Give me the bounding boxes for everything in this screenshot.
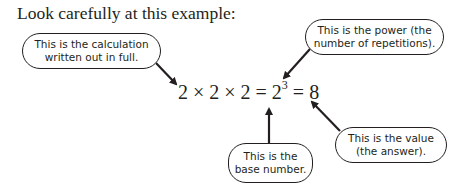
callout-value-line1: This is the value	[348, 132, 434, 145]
equation-expanded: 2 × 2 × 2	[178, 81, 251, 103]
callout-value-line2: (the answer).	[348, 145, 434, 158]
equation-value: 8	[309, 81, 319, 103]
equation-equals-1: =	[256, 81, 267, 103]
callout-base-line2: base number.	[235, 163, 307, 176]
equation-equals-2: =	[293, 81, 304, 103]
callout-base-line1: This is the	[235, 150, 307, 163]
arrow-calculation	[156, 63, 176, 84]
callout-power-line2: number of repetitions).	[314, 37, 436, 50]
callout-base: This is the base number.	[228, 143, 313, 183]
equation-power: 3	[282, 78, 288, 92]
arrow-value	[312, 102, 340, 131]
callout-power: This is the power (the number of repetit…	[305, 19, 444, 55]
callout-calculation: This is the calculation written out in f…	[22, 33, 161, 69]
callout-calculation-line2: written out in full.	[34, 51, 148, 64]
callout-power-line1: This is the power (the	[314, 24, 436, 37]
callout-calculation-line1: This is the calculation	[34, 38, 148, 51]
equation: 2 × 2 × 2 = 23 = 8	[178, 80, 319, 104]
callout-value: This is the value (the answer).	[335, 127, 447, 163]
arrow-power	[284, 49, 310, 78]
equation-base: 2	[272, 81, 282, 103]
